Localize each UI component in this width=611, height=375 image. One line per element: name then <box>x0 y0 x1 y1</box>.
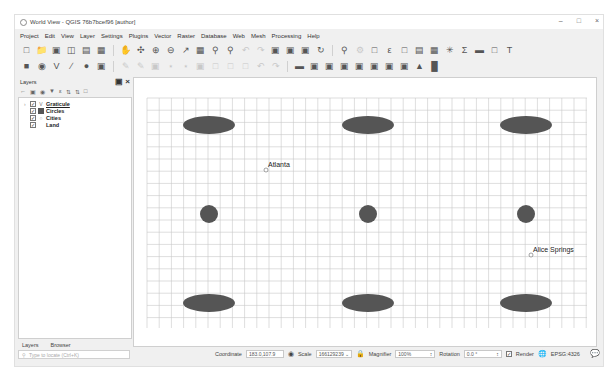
attribute-table-icon[interactable]: ▤ <box>414 45 425 56</box>
undo-icon[interactable]: ↶ <box>255 61 266 72</box>
menu-plugins[interactable]: Plugins <box>129 33 149 39</box>
field-calculator-icon[interactable]: ▦ <box>429 45 440 56</box>
select-by-expression-icon[interactable]: ε <box>384 45 395 56</box>
ellipse-feature[interactable] <box>500 294 552 312</box>
pin-labels-icon[interactable]: ▣ <box>324 61 335 72</box>
expand-arrow-icon[interactable]: › <box>24 101 28 107</box>
layer-item-graticule[interactable]: › ✓ V Graticule <box>19 100 131 107</box>
ellipse-feature[interactable] <box>183 294 235 312</box>
zoom-last-icon[interactable]: ↶ <box>240 45 251 56</box>
menu-edit[interactable]: Edit <box>45 33 55 39</box>
add-group-icon[interactable]: ▣ <box>30 88 36 95</box>
style-manager-icon[interactable]: ▦ <box>96 45 107 56</box>
tab-browser[interactable]: Browser <box>51 342 71 348</box>
spin-arrows-icon[interactable]: ↕ <box>496 351 499 357</box>
toggle-extents-icon[interactable]: ◉ <box>288 350 294 358</box>
city-point-atlanta[interactable] <box>264 168 268 172</box>
delete-selected-icon[interactable]: ▣ <box>195 61 206 72</box>
layer-item-cities[interactable]: ✓ ○ Cities <box>19 114 131 121</box>
rotation-spinbox[interactable]: 0.0 °↕ <box>464 350 502 358</box>
menu-vector[interactable]: Vector <box>154 33 171 39</box>
float-panel-icon[interactable]: ▣ <box>115 77 123 86</box>
map-canvas[interactable]: Atlanta Alice Springs <box>133 77 597 347</box>
layer-visibility-checkbox[interactable]: ✓ <box>30 108 36 114</box>
menu-processing[interactable]: Processing <box>272 33 302 39</box>
zoom-to-layer-icon[interactable]: ⚲ <box>225 45 236 56</box>
add-mesh-icon[interactable]: ● <box>81 61 92 72</box>
menu-raster[interactable]: Raster <box>177 33 195 39</box>
collapse-all-icon[interactable]: ⇅ <box>75 88 80 95</box>
menu-mesh[interactable]: Mesh <box>251 33 266 39</box>
close-button[interactable]: × <box>595 17 599 24</box>
menu-help[interactable]: Help <box>307 33 319 39</box>
new-print-layout-icon[interactable]: ◫ <box>66 45 77 56</box>
messages-icon[interactable]: 💬 <box>590 349 600 358</box>
crs-button[interactable]: EPSG:4326 <box>551 351 580 357</box>
circle-feature[interactable] <box>517 205 535 223</box>
edit-pencil-icon[interactable]: ✎ <box>120 61 131 72</box>
save-project-icon[interactable]: ▣ <box>51 45 62 56</box>
digitize-icon[interactable]: ∕ <box>66 61 77 72</box>
menu-web[interactable]: Web <box>233 33 245 39</box>
refresh-icon[interactable]: ↻ <box>315 45 326 56</box>
tab-layers[interactable]: Layers <box>22 342 39 348</box>
locator-search-input[interactable]: ⚲ Type to locate (Ctrl+K) <box>18 350 130 359</box>
minimize-button[interactable]: – <box>559 17 563 24</box>
scale-combobox[interactable]: 166129239⌄ <box>316 350 352 358</box>
run-action-icon[interactable]: ⚙ <box>354 45 365 56</box>
filter-legend-icon[interactable]: ▼ <box>49 88 55 94</box>
spin-arrows-icon[interactable]: ↕ <box>430 351 433 357</box>
layer-styling-icon[interactable]: ← <box>20 88 26 94</box>
label-toolbar-icon[interactable]: ▬ <box>294 61 305 72</box>
manage-visibility-icon[interactable]: ◉ <box>40 88 45 95</box>
layer-labeling-icon[interactable]: ▣ <box>309 61 320 72</box>
pan-to-selection-icon[interactable]: ✣ <box>135 45 146 56</box>
paste-features-icon[interactable]: □ <box>240 61 251 72</box>
pan-hand-icon[interactable]: ✋ <box>120 45 131 56</box>
bookmark-icon[interactable]: ▣ <box>300 45 311 56</box>
save-edits-icon[interactable]: ▣ <box>150 61 161 72</box>
zoom-in-icon[interactable]: ⊕ <box>150 45 161 56</box>
show-hide-labels-icon[interactable]: ▣ <box>339 61 350 72</box>
zoom-next-icon[interactable]: ↷ <box>255 45 266 56</box>
statistics-sum-icon[interactable]: Σ <box>459 45 470 56</box>
magnifier-spinbox[interactable]: 100%↕ <box>395 350 435 358</box>
ellipse-feature[interactable] <box>342 294 394 312</box>
layer-item-circles[interactable]: ✓ Circles <box>19 107 131 114</box>
open-project-icon[interactable]: 📁 <box>36 45 47 56</box>
measure-icon[interactable]: ▬ <box>474 45 485 56</box>
menu-settings[interactable]: Settings <box>101 33 123 39</box>
zoom-rubberband-icon[interactable]: ↗ <box>180 45 191 56</box>
circle-feature[interactable] <box>359 205 377 223</box>
close-panel-icon[interactable]: × <box>125 77 130 86</box>
move-label-icon[interactable]: ▣ <box>354 61 365 72</box>
book-icon[interactable]: █ <box>429 61 440 72</box>
layout-manager-icon[interactable]: ▤ <box>81 45 92 56</box>
identify-features-icon[interactable]: ⚲ <box>339 45 350 56</box>
zoom-to-selection-icon[interactable]: ⚲ <box>210 45 221 56</box>
crs-globe-icon[interactable]: 🌐 <box>538 350 547 358</box>
cut-features-icon[interactable]: □ <box>210 61 221 72</box>
menu-database[interactable]: Database <box>201 33 227 39</box>
new-map-view-icon[interactable]: ▣ <box>270 45 281 56</box>
select-features-icon[interactable]: □ <box>369 45 380 56</box>
toggle-editing-icon[interactable]: ✎ <box>135 61 146 72</box>
layer-visibility-checkbox[interactable]: ✓ <box>30 101 36 107</box>
city-point-alice-springs[interactable] <box>529 253 533 257</box>
processing-toolbox-icon[interactable]: ✳ <box>444 45 455 56</box>
rotate-label-icon[interactable]: ▣ <box>369 61 380 72</box>
zoom-full-icon[interactable]: ▦ <box>195 45 206 56</box>
zoom-out-icon[interactable]: ⊖ <box>165 45 176 56</box>
add-layer-icon[interactable]: ◉ <box>36 61 47 72</box>
maximize-button[interactable]: □ <box>577 17 581 24</box>
ellipse-feature[interactable] <box>183 116 235 134</box>
map-tips-icon[interactable]: □ <box>489 45 500 56</box>
label-properties-icon[interactable]: ▣ <box>399 61 410 72</box>
copy-features-icon[interactable]: □ <box>225 61 236 72</box>
text-annotation-icon[interactable]: T <box>504 45 515 56</box>
redo-icon[interactable]: ↷ <box>270 61 281 72</box>
add-feature-icon[interactable]: ⋆ <box>165 61 176 72</box>
change-label-icon[interactable]: ▣ <box>384 61 395 72</box>
expand-all-icon[interactable]: ⇅ <box>66 88 71 95</box>
layer-visibility-checkbox[interactable]: ✓ <box>30 115 36 121</box>
